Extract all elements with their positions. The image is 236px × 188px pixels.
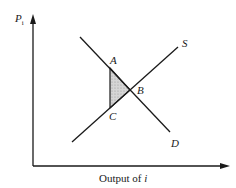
x-axis-arrow-icon bbox=[220, 163, 230, 169]
demand-label: D bbox=[170, 137, 179, 149]
y-axis-label: Pi bbox=[14, 12, 24, 27]
demand-curve bbox=[80, 37, 170, 132]
y-axis-arrow-icon bbox=[30, 14, 36, 24]
point-a-label: A bbox=[109, 54, 117, 66]
shaded-triangle-abc bbox=[110, 68, 130, 108]
supply-curve bbox=[72, 47, 178, 142]
point-b-label: B bbox=[137, 84, 144, 96]
x-axis-label: Output of i bbox=[99, 172, 147, 184]
point-c-label: C bbox=[109, 110, 117, 122]
supply-label: S bbox=[182, 37, 188, 49]
supply-demand-diagram: Pi S D A B C Output of i bbox=[0, 0, 236, 188]
